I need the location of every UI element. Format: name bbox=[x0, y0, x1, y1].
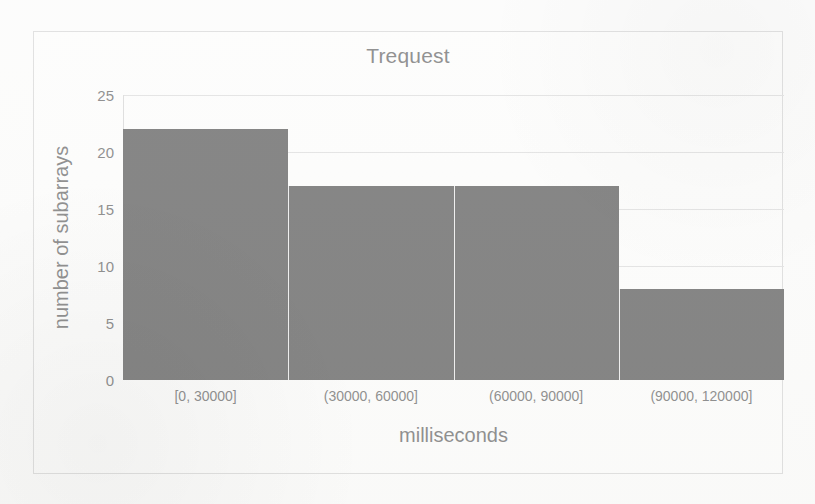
bar-slot bbox=[288, 95, 453, 380]
y-axis-tick-label: 20 bbox=[97, 144, 114, 161]
x-axis-tick-label: (90000, 120000] bbox=[619, 388, 784, 404]
x-axis-tick-label: (30000, 60000] bbox=[288, 388, 453, 404]
chart-title: Trequest bbox=[34, 44, 782, 68]
bar[interactable] bbox=[454, 186, 619, 380]
y-axis-tick-label: 5 bbox=[106, 315, 114, 332]
bar-slot bbox=[619, 95, 784, 380]
y-axis-tick-label: 25 bbox=[97, 87, 114, 104]
x-axis-title: milliseconds bbox=[123, 424, 784, 447]
bar-slot bbox=[454, 95, 619, 380]
y-axis-tick-label: 0 bbox=[106, 372, 114, 389]
y-axis-title-label: number of subarrays bbox=[51, 146, 74, 329]
x-axis-tick-labels: [0, 30000](30000, 60000](60000, 90000](9… bbox=[123, 388, 784, 404]
x-axis-tick-label: [0, 30000] bbox=[123, 388, 288, 404]
plot-area: 0510152025 bbox=[123, 95, 784, 380]
x-axis-tick-label: (60000, 90000] bbox=[454, 388, 619, 404]
chart-frame: Trequest number of subarrays 0510152025 … bbox=[33, 31, 783, 474]
bar[interactable] bbox=[288, 186, 453, 380]
bar-slot bbox=[123, 95, 288, 380]
bar[interactable] bbox=[123, 129, 288, 380]
bar-series bbox=[123, 95, 784, 380]
y-axis-title: number of subarrays bbox=[48, 95, 76, 380]
y-axis-tick-label: 10 bbox=[97, 258, 114, 275]
y-axis-tick-label: 15 bbox=[97, 201, 114, 218]
bar[interactable] bbox=[619, 289, 784, 380]
